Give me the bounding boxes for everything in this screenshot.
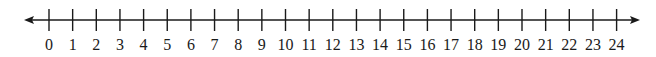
- number-line-axis: [24, 16, 640, 24]
- tick-label-18: 18: [467, 36, 483, 53]
- tick-label-20: 20: [514, 36, 530, 53]
- tick-label-8: 8: [234, 36, 242, 53]
- tick-label-17: 17: [443, 36, 459, 53]
- tick-label-16: 16: [419, 36, 435, 53]
- tick-label-9: 9: [258, 36, 266, 53]
- number-line: 0123456789101112131415161718192021222324: [0, 0, 656, 57]
- tick-label-14: 14: [372, 36, 388, 53]
- tick-label-13: 13: [348, 36, 364, 53]
- tick-label-10: 10: [278, 36, 294, 53]
- tick-label-5: 5: [163, 36, 171, 53]
- tick-label-2: 2: [92, 36, 100, 53]
- tick-label-1: 1: [69, 36, 77, 53]
- tick-label-19: 19: [490, 36, 506, 53]
- tick-label-23: 23: [585, 36, 601, 53]
- tick-label-4: 4: [140, 36, 148, 53]
- tick-label-15: 15: [396, 36, 412, 53]
- tick-label-3: 3: [116, 36, 124, 53]
- tick-label-6: 6: [187, 36, 195, 53]
- tick-label-11: 11: [301, 36, 316, 53]
- tick-label-21: 21: [538, 36, 554, 53]
- tick-label-12: 12: [325, 36, 341, 53]
- tick-label-0: 0: [45, 36, 53, 53]
- tick-labels: 0123456789101112131415161718192021222324: [45, 36, 625, 53]
- tick-label-7: 7: [211, 36, 219, 53]
- tick-label-22: 22: [561, 36, 577, 53]
- tick-label-24: 24: [609, 36, 625, 53]
